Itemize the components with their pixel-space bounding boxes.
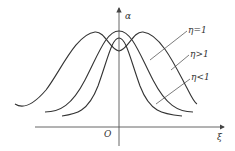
- label-eta-greater-1: η>1: [190, 50, 209, 59]
- leader-eta-equal-1: [150, 31, 187, 60]
- origin-label: O: [104, 130, 111, 139]
- y-axis-label: α: [125, 12, 131, 21]
- label-eta-equal-1: η=1: [188, 26, 207, 35]
- leader-eta-less-1: [156, 79, 190, 104]
- x-axis-label: ξ: [217, 133, 222, 142]
- label-eta-less-1: η<1: [191, 73, 210, 82]
- curve-eta-greater-1: [15, 32, 197, 106]
